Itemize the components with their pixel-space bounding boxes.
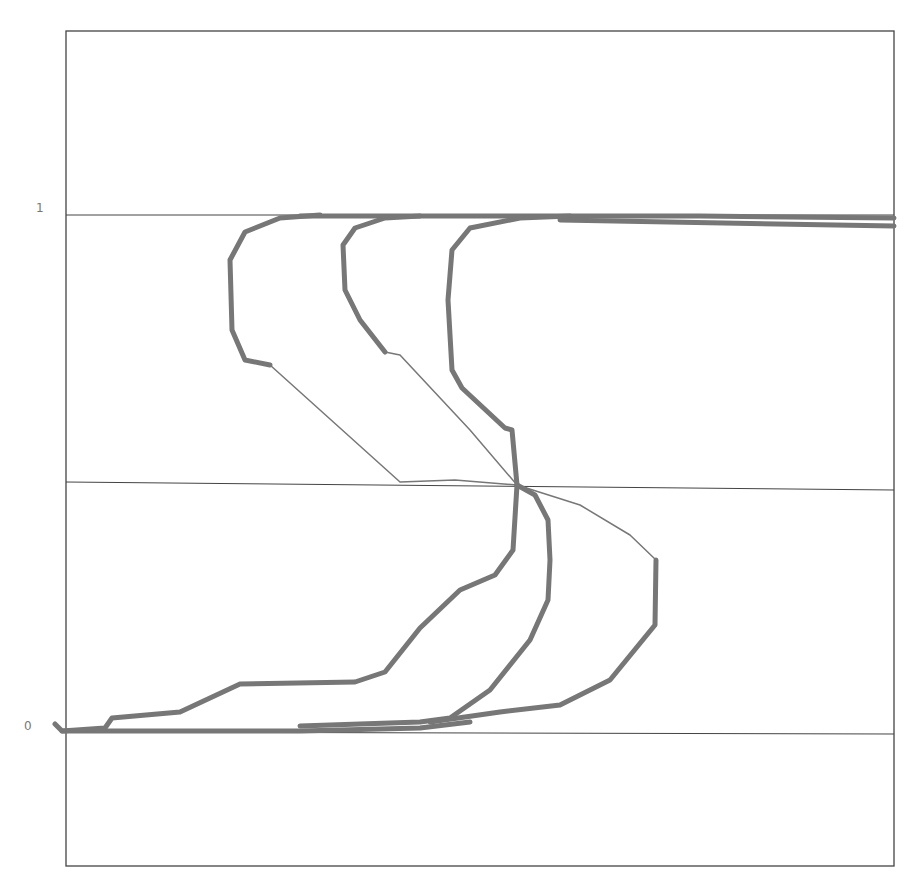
curve-group [55, 215, 894, 731]
chart-figure: 1 0 [0, 0, 919, 895]
loop-middle-top [343, 216, 420, 352]
loop-left-top [230, 215, 320, 365]
loop-left-rise [62, 485, 517, 731]
loop-right-rise [430, 560, 656, 722]
gridline-y-mid [66, 482, 894, 490]
plot-frame [66, 31, 894, 866]
top-bundle-lower [560, 220, 894, 226]
loop-right-top [448, 216, 570, 485]
plot-area [0, 0, 919, 895]
loop-left-diagonal [270, 365, 517, 485]
